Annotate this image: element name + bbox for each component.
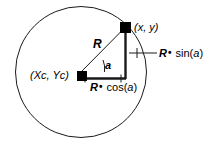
sin-label-fn: sin [176,47,190,59]
vertical-component-label: R• sin(a) [159,48,203,59]
center-point-marker [77,71,87,81]
sin-label-var: R [159,47,167,59]
radius-line [81,28,125,73]
circle-trigonometry-diagram: (x, y) (Xc, Yc) R a R• cos(a) R• sin(a) [0,0,205,156]
circle-point-marker [120,22,131,33]
cos-label-fn: cos [107,81,124,93]
center-coordinates-label: (Xc, Yc) [30,70,69,81]
angle-label: a [105,60,111,71]
cos-label-dot: • [98,81,104,92]
radius-label: R [93,38,102,50]
horizontal-component-label: R• cos(a) [90,82,137,93]
cos-label-close: ) [133,81,137,93]
point-coordinates-label: (x, y) [134,22,158,33]
cos-label-var: R [90,81,98,93]
sin-label-close: ) [199,47,203,59]
sin-label-dot: • [167,47,173,58]
